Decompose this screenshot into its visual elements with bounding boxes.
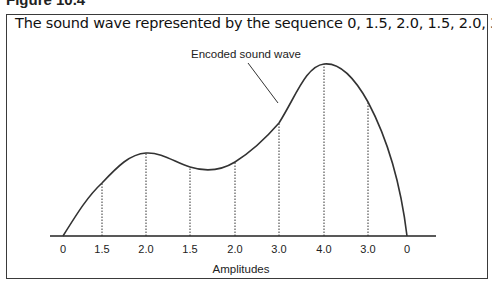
tick-label: 0 bbox=[404, 243, 410, 255]
sound-wave-diagram: Encoded sound wave 0 1.5 2.0 1.5 2.0 3.0… bbox=[0, 0, 492, 284]
annotation-label: Encoded sound wave bbox=[191, 48, 301, 60]
tick-label: 2.0 bbox=[138, 243, 153, 255]
tick-label: 1.5 bbox=[182, 243, 197, 255]
tick-label: 4.0 bbox=[316, 243, 331, 255]
tick-label: 3.0 bbox=[360, 243, 375, 255]
tick-label: 3.0 bbox=[271, 243, 286, 255]
tick-label: 0 bbox=[60, 243, 66, 255]
sample-lines bbox=[102, 64, 368, 236]
x-axis-title: Amplitudes bbox=[213, 263, 270, 275]
sound-wave-curve bbox=[63, 64, 407, 236]
tick-label: 2.0 bbox=[227, 243, 242, 255]
tick-label: 1.5 bbox=[94, 243, 109, 255]
annotation-leader-line bbox=[248, 63, 278, 103]
